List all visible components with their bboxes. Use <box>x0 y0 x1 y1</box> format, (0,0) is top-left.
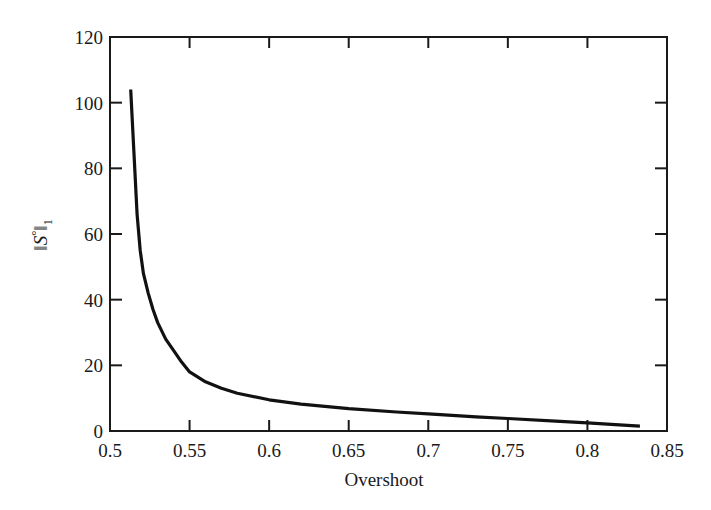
x-tick-label: 0.7 <box>416 440 440 461</box>
chart: 0.50.550.60.650.70.750.80.85 02040608010… <box>0 0 711 510</box>
x-tick-label: 0.6 <box>257 440 281 461</box>
x-tick-label: 0.8 <box>576 440 600 461</box>
y-axis-ticks: 020406080100120 <box>75 27 668 442</box>
data-series <box>131 90 640 427</box>
y-tick-label: 60 <box>84 224 103 245</box>
y-tick-label: 100 <box>75 93 104 114</box>
plot-frame <box>110 37 667 431</box>
series-line <box>131 90 640 427</box>
x-tick-label: 0.55 <box>173 440 206 461</box>
y-tick-label: 40 <box>84 290 103 311</box>
y-tick-label: 20 <box>84 355 103 376</box>
x-tick-label: 0.65 <box>332 440 365 461</box>
plot-border <box>110 37 667 431</box>
y-tick-label: 80 <box>84 158 103 179</box>
y-tick-label: 0 <box>94 421 104 442</box>
x-tick-label: 0.5 <box>98 440 122 461</box>
x-axis-ticks: 0.50.550.60.650.70.750.80.85 <box>98 37 684 461</box>
x-tick-label: 0.75 <box>491 440 524 461</box>
y-tick-label: 120 <box>75 27 104 48</box>
y-axis-subscript: 1 <box>41 219 55 225</box>
y-axis-title: ‖S°‖1 <box>28 219 55 250</box>
x-axis-title: Overshoot <box>344 469 424 490</box>
svg-text:‖S°‖1: ‖S°‖1 <box>28 219 55 250</box>
x-tick-label: 0.85 <box>650 440 683 461</box>
y-axis-symbol: S <box>30 235 51 245</box>
